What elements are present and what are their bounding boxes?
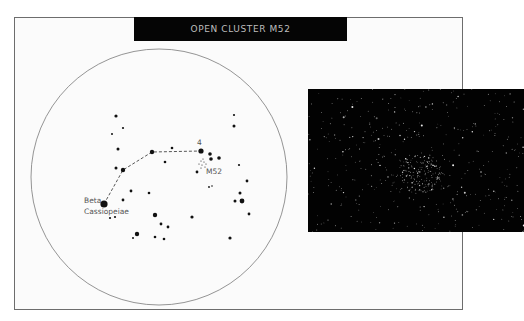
star: [164, 161, 167, 164]
star: [150, 150, 154, 154]
star: [196, 171, 199, 174]
star-field: [100, 114, 250, 240]
label-beta-1: Beta: [84, 196, 101, 205]
star: [121, 168, 125, 172]
cluster-dot: [200, 167, 201, 168]
star: [109, 217, 111, 219]
star: [217, 156, 221, 160]
page-title: OPEN CLUSTER M52: [190, 24, 290, 34]
star: [122, 127, 124, 129]
cluster-photo: [308, 89, 524, 232]
star: [208, 152, 212, 156]
star: [234, 200, 237, 203]
star: [163, 238, 166, 241]
cluster-dot: [205, 163, 206, 164]
star: [198, 148, 203, 153]
star: [117, 148, 120, 151]
field-of-view-circle: [31, 49, 287, 305]
star: [114, 114, 117, 117]
star: [171, 147, 174, 150]
star: [233, 114, 235, 116]
star: [240, 199, 245, 204]
star: [238, 164, 240, 166]
star: [246, 180, 249, 183]
label-beta-2: Cassiopeiae: [84, 207, 129, 216]
cluster-dot: [200, 160, 201, 161]
star: [135, 232, 139, 236]
star: [239, 192, 242, 195]
label-star4: 4: [197, 138, 202, 147]
star: [122, 199, 125, 202]
photo-star-field: [308, 89, 524, 232]
star: [115, 167, 118, 170]
star: [209, 157, 213, 161]
star: [211, 185, 213, 187]
cluster-dot: [198, 163, 199, 164]
star: [154, 236, 157, 239]
star-hop-path: [104, 151, 201, 204]
title-bar: OPEN CLUSTER M52: [134, 17, 347, 41]
cluster-dot: [203, 161, 204, 162]
star: [114, 216, 116, 218]
star: [148, 192, 151, 195]
star: [228, 236, 231, 239]
star: [208, 186, 210, 188]
star: [167, 226, 170, 229]
star: [190, 215, 193, 218]
star: [153, 213, 157, 217]
label-m52: M52: [206, 167, 222, 176]
star: [111, 133, 113, 135]
star: [233, 125, 236, 128]
star: [130, 190, 133, 193]
star: [132, 237, 134, 239]
star: [160, 223, 163, 226]
cluster-dot: [201, 164, 202, 165]
cluster-dot: [202, 158, 203, 159]
star: [248, 213, 251, 216]
